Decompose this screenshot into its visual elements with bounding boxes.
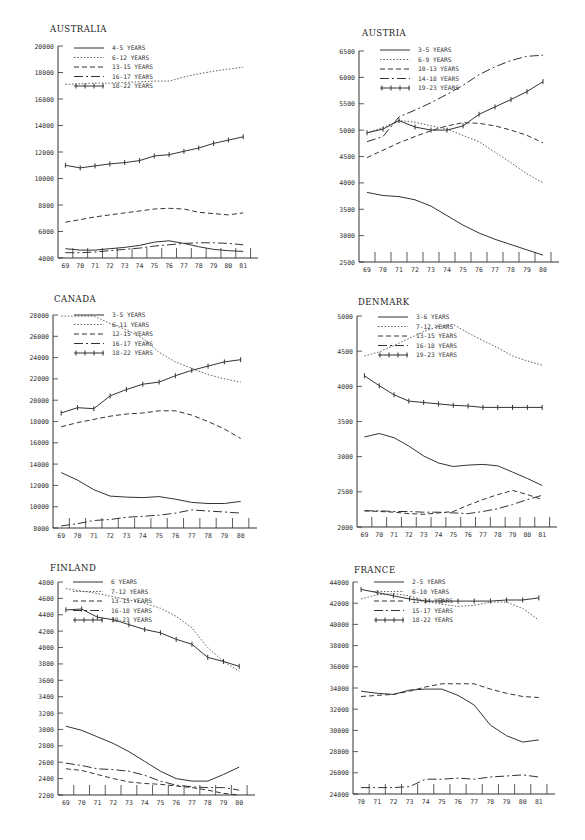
x-tick-label: 78 [486,798,494,806]
y-tick-label: 5000 [337,313,353,321]
series-line [66,609,239,666]
y-tick-label: 4000 [339,179,355,187]
series-line [61,360,241,413]
y-tick-label: 6500 [339,48,355,56]
x-tick-label: 69 [360,531,368,539]
line-chart-finland: 2200240026002800300032003400360038004000… [0,560,290,840]
x-tick-label: 75 [150,262,158,270]
legend-label: 2-5 YEARS [412,578,446,585]
x-tick-label: 79 [210,262,218,270]
y-tick-label: 3000 [337,453,353,461]
x-tick-label: 69 [363,266,371,274]
x-tick-label: 74 [422,798,430,806]
x-tick-label: 73 [420,531,428,539]
y-tick-label: 5500 [339,100,355,108]
x-tick-label: 78 [204,799,212,807]
x-tick-label: 77 [188,799,196,807]
line-chart-austria: 2500300035004000450050005500600065006970… [290,0,585,290]
legend-label: 10-13 YEARS [418,65,459,72]
y-tick-label: 14000 [34,122,54,130]
x-tick-label: 79 [509,531,517,539]
y-tick-label: 18000 [34,69,54,77]
x-tick-label: 79 [220,799,228,807]
y-tick-label: 10000 [29,503,49,511]
x-tick-label: 74 [443,266,451,274]
y-tick-label: 14000 [29,461,49,469]
y-tick-label: 26000 [329,769,349,777]
panel-france: FRANCE 240002600028000300003200034000360… [290,560,585,840]
x-tick-label: 73 [406,798,414,806]
x-tick-label: 81 [239,262,247,270]
x-tick-label: 70 [76,262,84,270]
y-tick-label: 3500 [337,418,353,426]
x-tick-label: 69 [62,799,70,807]
x-tick-label: 75 [155,532,163,540]
x-tick-label: 72 [109,799,117,807]
y-tick-label: 32000 [329,706,349,714]
x-tick-label: 74 [141,799,149,807]
y-tick-label: 2200 [38,792,54,800]
y-tick-label: 3800 [38,660,54,668]
x-tick-label: 72 [106,262,114,270]
legend-label: 18-22 YEARS [412,616,453,623]
x-tick-label: 79 [503,798,511,806]
y-tick-label: 22000 [29,375,49,383]
x-tick-label: 76 [454,798,462,806]
y-tick-label: 12000 [29,482,49,490]
y-tick-label: 26000 [29,333,49,341]
legend-label: 3-5 YEARS [112,311,146,318]
y-tick-label: 42000 [329,600,349,608]
x-tick-label: 70 [74,532,82,540]
y-tick-label: 4800 [38,579,54,587]
x-tick-label: 80 [519,798,527,806]
x-tick-label: 79 [220,532,228,540]
y-tick-label: 2600 [38,759,54,767]
legend-label: 18-22 YEARS [112,82,153,89]
y-tick-label: 18000 [29,418,49,426]
legend-label: 16-18 YEARS [111,607,152,614]
legend-label: 15-17 YEARS [412,607,453,614]
legend-label: 14-18 YEARS [418,75,459,82]
y-tick-label: 24000 [29,354,49,362]
x-tick-label: 72 [411,266,419,274]
x-tick-label: 80 [523,531,531,539]
legend-label: 19-23 YEARS [111,616,152,623]
x-tick-label: 74 [136,262,144,270]
y-tick-label: 3000 [339,232,355,240]
x-tick-label: 78 [204,532,212,540]
legend-label: 19-23 YEARS [416,351,457,358]
x-tick-label: 78 [195,262,203,270]
x-tick-label: 69 [61,262,69,270]
x-tick-label: 72 [389,798,397,806]
legend-label: 16-17 YEARS [112,73,153,80]
y-tick-label: 28000 [329,748,349,756]
y-tick-label: 3400 [38,693,54,701]
legend-label: 7-12 YEARS [416,323,454,330]
x-tick-label: 72 [106,532,114,540]
chart-title: CANADA [54,294,96,304]
series-line [367,192,543,255]
x-tick-label: 75 [449,531,457,539]
x-tick-label: 73 [121,262,129,270]
legend-label: 13-15 YEARS [416,332,457,339]
x-tick-label: 76 [172,799,180,807]
legend-label: 18-22 YEARS [112,349,153,356]
x-tick-label: 77 [491,266,499,274]
y-tick-label: 44000 [329,579,349,587]
legend-label: 19-23 YEARS [418,84,459,91]
y-tick-label: 4000 [38,255,54,263]
y-tick-label: 8000 [38,202,54,210]
y-tick-label: 4000 [38,644,54,652]
x-tick-label: 77 [180,262,188,270]
chart-title: FRANCE [354,565,396,575]
y-tick-label: 3200 [38,710,54,718]
x-tick-label: 70 [78,799,86,807]
y-tick-label: 30000 [329,727,349,735]
series-line [65,243,243,253]
series-line [364,434,542,486]
y-tick-label: 6000 [38,228,54,236]
legend-label: 6-11 YEARS [112,321,150,328]
legend-label: 13-15 YEARS [112,63,153,70]
x-tick-label: 75 [157,799,165,807]
legend-label: 6 YEARS [111,578,137,585]
